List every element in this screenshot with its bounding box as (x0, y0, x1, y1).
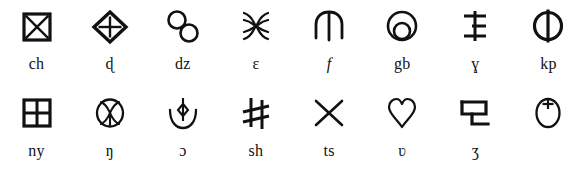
glyph-label: ch (29, 56, 45, 72)
glyph-cell-ezh[interactable]: ʒ (439, 87, 512, 174)
glyph-cell-gb[interactable]: gb (366, 0, 439, 87)
glyph-cell-f[interactable]: f (293, 0, 366, 87)
glyph-label: ny (28, 143, 44, 159)
two-diagonal-circles-icon (159, 7, 207, 53)
glyph-label: dz (175, 56, 191, 72)
circle-with-vertical-bar-icon (524, 7, 572, 53)
oval-with-plus-icon (524, 94, 572, 140)
glyph-cell-d-retroflex[interactable]: ɖ (73, 0, 146, 87)
circle-in-circle-icon (378, 7, 426, 53)
square-with-diagonals-icon (13, 7, 61, 53)
glyph-label: gb (394, 56, 410, 72)
glyph-label: kp (540, 56, 556, 72)
glyph-cell-kp[interactable]: kp (512, 0, 585, 87)
glyph-label: ɔ (179, 143, 186, 159)
double-bowtie-arcs-icon (232, 7, 280, 53)
oval-with-bowtie-icon (86, 94, 134, 140)
glyph-label: ɖ (106, 56, 114, 72)
glyph-cell-ch[interactable]: ch (0, 0, 73, 87)
glyph-grid: ch ɖ (0, 0, 585, 174)
glyph-cell-ts[interactable]: ts (293, 87, 366, 174)
glyph-cell-gamma[interactable]: ɣ (439, 0, 512, 87)
glyph-cell-v-hook[interactable]: ʋ (366, 87, 439, 174)
glyph-label: sh (249, 143, 264, 159)
sharp-hash-icon (232, 94, 280, 140)
glyph-label: ʋ (398, 143, 406, 159)
glyph-cell-open-o[interactable]: ɔ (146, 87, 219, 174)
glyph-cell-epsilon[interactable]: ɛ (219, 0, 292, 87)
glyph-label: ʒ (472, 143, 479, 159)
glyph-label: ŋ (106, 143, 114, 159)
glyph-cell-dz[interactable]: dz (146, 0, 219, 87)
heart-outline-icon (378, 94, 426, 140)
cross-x-icon (305, 94, 353, 140)
glyph-row-1: ch ɖ (0, 0, 585, 87)
angular-flag-icon (451, 94, 499, 140)
glyph-chart-sheet: ch ɖ (0, 0, 585, 174)
glyph-row-2: ny ŋ (0, 87, 585, 174)
glyph-cell-sh[interactable]: sh (219, 87, 292, 174)
four-pane-square-icon (13, 94, 61, 140)
arch-with-stem-icon (305, 7, 353, 53)
glyph-label: ɣ (471, 56, 479, 72)
glyph-cell-oval-plus[interactable] (512, 87, 585, 174)
glyph-cell-eng[interactable]: ŋ (73, 87, 146, 174)
diamond-over-bowl-icon (159, 94, 207, 140)
diamond-with-cross-icon (86, 7, 134, 53)
glyph-label: ts (324, 143, 335, 159)
glyph-cell-ny[interactable]: ny (0, 87, 73, 174)
glyph-label: ɛ (252, 56, 259, 72)
stem-three-crossbars-icon (451, 7, 499, 53)
glyph-label: f (327, 56, 332, 72)
